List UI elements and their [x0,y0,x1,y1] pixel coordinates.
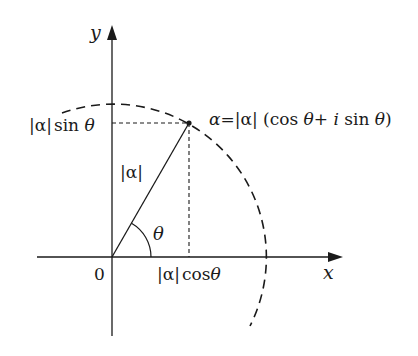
formula-eq: = [220,109,234,129]
point-alpha [186,120,191,125]
y-proj-modulus: |α| [29,115,52,135]
angle-arc [132,223,152,257]
y-projection-label: |α|sin θ [29,115,95,135]
x-proj-theta: θ [210,264,220,284]
x-proj-modulus: |α| [157,264,180,284]
radius-vector [112,123,189,257]
polar-form-diagram: y x 0 θ |α| |α|sin θ |α|cosθ α=|α| (cos … [0,0,418,356]
y-proj-theta: θ [84,115,94,135]
formula-theta1: θ [304,109,314,129]
y-axis-label: y [89,21,101,43]
y-axis-arrow-icon [107,25,117,40]
x-proj-func: cos [182,264,210,284]
radius-label-text: |α| [120,162,143,182]
origin-label: 0 [94,264,105,284]
y-proj-func: sin [54,115,85,135]
formula-alpha: α [209,109,221,129]
formula-close: ) [385,109,392,129]
formula-plus: + [314,109,334,129]
angle-label: θ [153,223,164,244]
formula-sin: sin [339,109,375,129]
modulus-arc [62,104,266,326]
formula-theta2: θ [375,109,385,129]
radius-label: |α| [120,162,143,182]
x-axis-label: x [323,261,334,283]
point-formula-label: α=|α| (cos θ+ i sin θ) [209,109,392,129]
x-projection-label: |α|cosθ [157,264,221,284]
formula-modulus: |α| [235,109,258,129]
formula-open: (cos [258,109,304,129]
